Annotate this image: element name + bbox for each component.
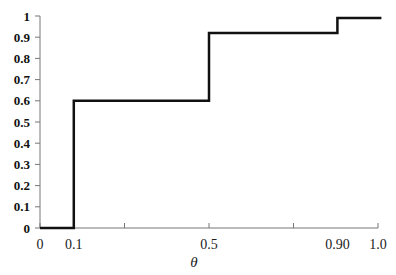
y-tick-label: 0.4 [14,136,31,151]
x-axis-ticks: 00.10.50.901.0 [37,223,387,252]
x-tick-label: 0.90 [325,237,350,252]
x-axis-label: θ [190,254,198,270]
step-chart: 00.10.20.30.40.50.60.70.80.91 00.10.50.9… [0,0,396,275]
y-tick-label: 0.6 [14,93,31,108]
x-tick-label: 0.1 [65,237,83,252]
step-line [40,18,381,228]
y-tick-label: 1 [24,9,31,24]
y-tick-label: 0.8 [14,51,31,66]
y-tick-label: 0 [24,221,31,236]
x-tick-label: 1.0 [369,237,387,252]
y-tick-label: 0.5 [14,115,31,130]
y-tick-label: 0.1 [14,199,30,214]
y-tick-label: 0.9 [14,30,31,45]
x-tick-label: 0 [37,237,44,252]
y-tick-label: 0.2 [14,178,30,193]
y-tick-label: 0.7 [14,72,31,87]
x-tick-label: 0.5 [200,237,218,252]
y-tick-label: 0.3 [14,157,31,172]
y-axis-ticks: 00.10.20.30.40.50.60.70.80.91 [14,9,40,236]
data-series [40,18,381,228]
